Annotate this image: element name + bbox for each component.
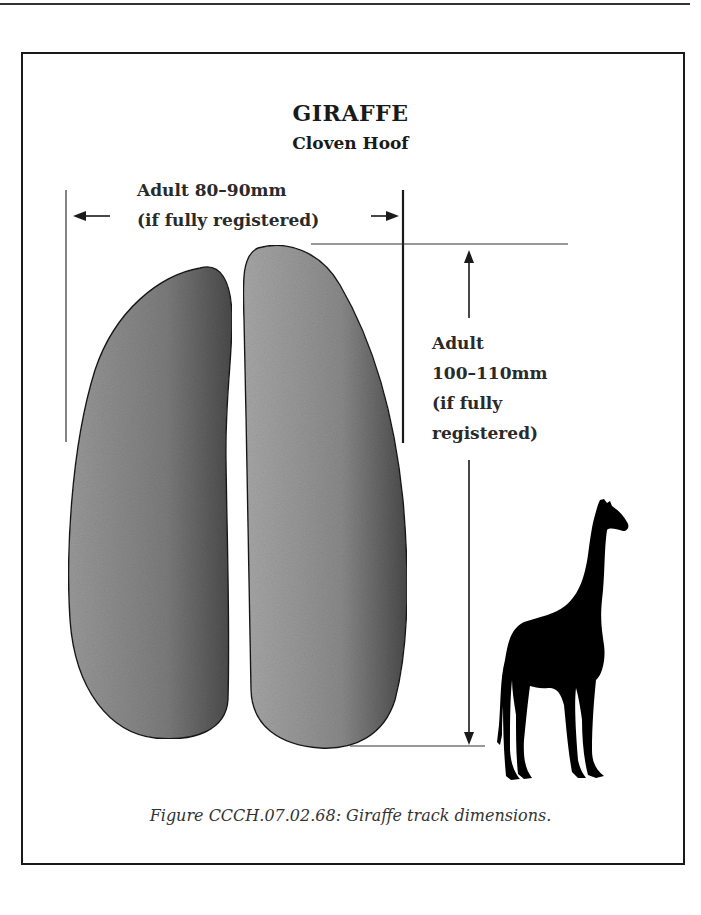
arrow-right-icon xyxy=(371,211,399,221)
arrow-left-icon xyxy=(73,211,110,221)
arrow-up-icon xyxy=(464,250,474,318)
right-hoof-print xyxy=(243,245,407,748)
figure-caption: Figure CCCH.07.02.68: Giraffe track dime… xyxy=(0,806,701,825)
arrow-down-icon xyxy=(464,460,474,745)
left-hoof-print xyxy=(69,267,232,739)
track-diagram xyxy=(0,0,701,915)
giraffe-silhouette-icon xyxy=(497,499,628,780)
